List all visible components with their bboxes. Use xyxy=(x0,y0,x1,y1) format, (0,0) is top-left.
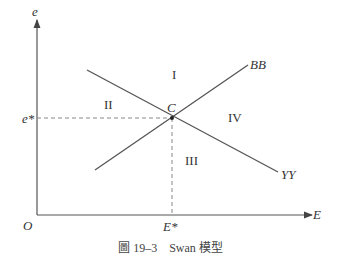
origin-label: O xyxy=(23,219,32,232)
region-I: I xyxy=(172,68,176,81)
E-star-label: E* xyxy=(163,220,177,233)
yy-curve xyxy=(87,70,278,172)
figure-caption: 圖 19–3 Swan 模型 xyxy=(0,238,341,256)
e-star-label: e* xyxy=(22,112,34,125)
region-IV: IV xyxy=(228,111,242,124)
equilibrium-point xyxy=(170,116,174,120)
region-III: III xyxy=(185,154,198,167)
bb-label: BB xyxy=(250,58,266,71)
region-II: II xyxy=(104,98,113,111)
yy-label: YY xyxy=(281,168,295,181)
intersection-label: C xyxy=(167,101,176,114)
x-axis-label: E xyxy=(313,208,321,221)
y-axis-label: e xyxy=(32,5,38,18)
